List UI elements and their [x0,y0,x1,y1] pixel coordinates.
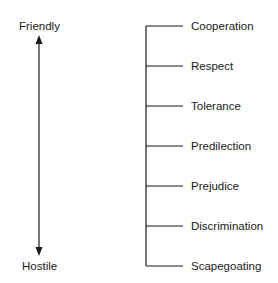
level-cooperation: Cooperation [191,19,254,33]
arrowhead-up-icon [36,35,43,44]
double-arrow [36,35,43,256]
level-predilection: Predilection [191,139,251,153]
level-prejudice: Prejudice [191,179,239,193]
level-scapegoating: Scapegoating [191,259,261,273]
friendly-label: Friendly [19,19,60,33]
level-respect: Respect [191,59,233,73]
arrowhead-down-icon [36,247,43,256]
level-tolerance: Tolerance [191,99,241,113]
hostile-label: Hostile [22,259,57,273]
level-discrimination: Discrimination [191,219,263,233]
bracket [146,26,183,266]
